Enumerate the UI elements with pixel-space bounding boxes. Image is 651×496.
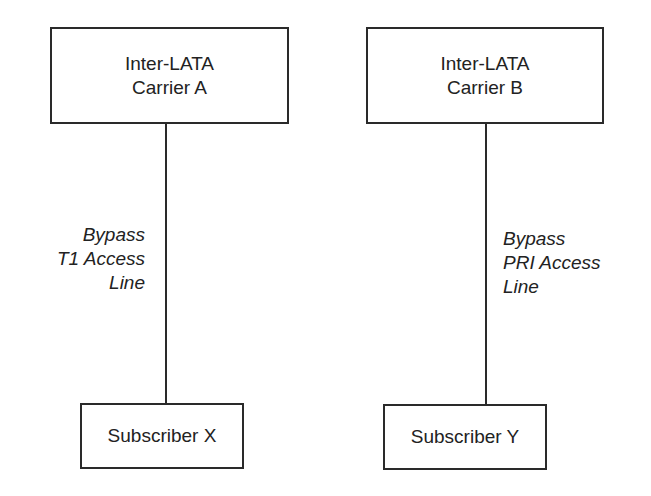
pri-access-line [485,123,487,405]
t1-access-label: Bypass T1 Access Line [40,223,145,295]
subscriber-y-node: Subscriber Y [383,404,547,470]
subscriber-x-node: Subscriber X [80,403,244,469]
subscriber-y-label: Subscriber Y [411,425,519,449]
carrier-a-line1: Inter-LATA [125,52,214,76]
pri-access-label: Bypass PRI Access Line [503,227,643,299]
subscriber-x-label: Subscriber X [108,424,217,448]
carrier-b-node: Inter-LATA Carrier B [366,27,604,124]
carrier-b-line2: Carrier B [447,76,523,100]
carrier-b-line1: Inter-LATA [440,52,529,76]
carrier-a-node: Inter-LATA Carrier A [50,27,289,124]
carrier-a-line2: Carrier A [132,76,207,100]
t1-access-line [165,123,167,404]
